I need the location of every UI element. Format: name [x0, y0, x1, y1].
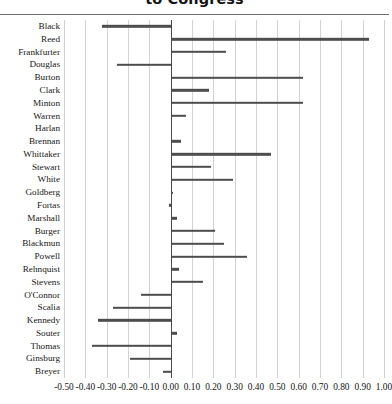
bar-row[interactable] [64, 20, 384, 33]
y-axis-tick-label: Minton [0, 97, 60, 110]
y-axis-tick-label: Harlan [0, 122, 60, 135]
bar-row[interactable] [64, 33, 384, 46]
x-axis-tick-label: 0.10 [184, 380, 200, 394]
bar-row[interactable] [64, 97, 384, 110]
y-axis-tick-label: Rehnquist [0, 263, 60, 276]
bar-row[interactable] [64, 250, 384, 263]
title-divider [0, 14, 389, 15]
bar-row[interactable] [64, 84, 384, 97]
bar[interactable] [171, 179, 233, 181]
y-axis-tick-label: Stevens [0, 276, 60, 289]
bar[interactable] [171, 115, 186, 117]
y-axis-tick-label: Burger [0, 225, 60, 238]
plot-area [64, 20, 384, 378]
bar-row[interactable] [64, 225, 384, 238]
bar-row[interactable] [64, 199, 384, 212]
bar[interactable] [113, 306, 171, 308]
y-axis-tick-label: Souter [0, 327, 60, 340]
y-axis-tick-label: Powell [0, 250, 60, 263]
y-axis-tick-label: Kennedy [0, 314, 60, 327]
x-axis-tick-label: 0.70 [312, 380, 328, 394]
bar[interactable] [171, 140, 182, 142]
x-axis-tick-label: 0.80 [333, 380, 349, 394]
bar[interactable] [92, 345, 171, 347]
y-axis-tick-label: Warren [0, 110, 60, 123]
y-axis-tick-label: Burton [0, 71, 60, 84]
chart-title-block: to Congress [0, 0, 389, 10]
x-axis-tick-label: -0.50 [54, 380, 74, 394]
y-axis-tick-label: Clark [0, 84, 60, 97]
bar-row[interactable] [64, 289, 384, 302]
bar-row[interactable] [64, 148, 384, 161]
x-axis-tick-label: -0.40 [76, 380, 96, 394]
bar-row[interactable] [64, 46, 384, 59]
bar[interactable] [171, 243, 224, 245]
y-axis-tick-label: Douglas [0, 58, 60, 71]
bar[interactable] [171, 230, 216, 232]
bar-row[interactable] [64, 173, 384, 186]
chart-title: to Congress [0, 0, 389, 10]
bar-row[interactable] [64, 237, 384, 250]
bar[interactable] [171, 102, 303, 104]
x-axis-tick-label: 0.30 [226, 380, 242, 394]
bar[interactable] [171, 217, 177, 219]
y-axis-tick-label: Black [0, 20, 60, 33]
bar[interactable] [171, 38, 369, 40]
gridline-1.00 [384, 20, 385, 378]
bar[interactable] [141, 294, 171, 296]
bar-row[interactable] [64, 263, 384, 276]
x-axis-tick-label: -0.10 [140, 380, 160, 394]
bar-row[interactable] [64, 212, 384, 225]
bar[interactable] [171, 153, 271, 155]
bar[interactable] [171, 332, 177, 334]
bar-row[interactable] [64, 135, 384, 148]
y-axis-tick-label: Marshall [0, 212, 60, 225]
y-axis-tick-label: Ginsburg [0, 352, 60, 365]
bar-rows [64, 20, 384, 378]
bar[interactable] [171, 268, 180, 270]
y-axis-tick-label: Whittaker [0, 148, 60, 161]
bar-row[interactable] [64, 365, 384, 378]
x-axis-tick-label: 0.20 [205, 380, 221, 394]
bar-row[interactable] [64, 71, 384, 84]
bar-row[interactable] [64, 110, 384, 123]
y-axis-tick-label: Goldberg [0, 186, 60, 199]
bar[interactable] [171, 255, 248, 257]
bar[interactable] [171, 51, 226, 53]
y-axis-tick-label: Breyer [0, 365, 60, 378]
bar-row[interactable] [64, 327, 384, 340]
bar[interactable] [117, 64, 170, 66]
y-axis-tick-label: Frankfurter [0, 46, 60, 59]
bar-row[interactable] [64, 314, 384, 327]
bar-row[interactable] [64, 161, 384, 174]
bar[interactable] [163, 370, 170, 372]
bar-row[interactable] [64, 58, 384, 71]
x-axis-labels: -0.50-0.40-0.30-0.20-0.100.000.100.200.3… [64, 380, 384, 396]
bar[interactable] [169, 204, 171, 206]
bar[interactable] [171, 281, 203, 283]
y-axis-tick-label: Brennan [0, 135, 60, 148]
bar-row[interactable] [64, 122, 384, 135]
bar-row[interactable] [64, 276, 384, 289]
x-axis-tick-label: -0.20 [118, 380, 138, 394]
x-axis-tick-label: -0.30 [97, 380, 117, 394]
bar-row[interactable] [64, 340, 384, 353]
x-axis-tick-label: 1.00 [376, 380, 392, 394]
bar[interactable] [98, 319, 171, 321]
bar[interactable] [171, 191, 173, 193]
x-axis-tick-label: 0.50 [269, 380, 285, 394]
bar[interactable] [171, 76, 303, 78]
y-axis-tick-label: White [0, 173, 60, 186]
bar-row[interactable] [64, 186, 384, 199]
bar[interactable] [171, 166, 212, 168]
y-axis-tick-label: Blackmun [0, 237, 60, 250]
bar-row[interactable] [64, 352, 384, 365]
bar[interactable] [130, 358, 171, 360]
bar[interactable] [171, 89, 209, 91]
y-axis-tick-label: Thomas [0, 340, 60, 353]
bar-row[interactable] [64, 301, 384, 314]
y-axis-tick-label: Scalia [0, 301, 60, 314]
y-axis-labels: BlackReedFrankfurterDouglasBurtonClarkMi… [0, 20, 60, 378]
bar[interactable] [102, 25, 170, 27]
